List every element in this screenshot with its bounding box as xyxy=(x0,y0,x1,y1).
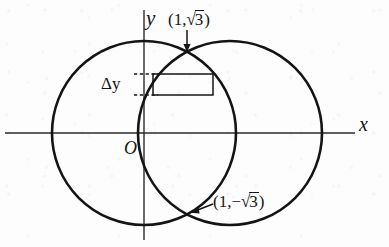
diagram-svg xyxy=(0,0,389,247)
upper-label-close: ) xyxy=(204,10,210,29)
upper-label-radicand: 3 xyxy=(195,10,205,28)
lower-label-open: (1, xyxy=(213,192,231,211)
lower-label-minus: − xyxy=(231,192,241,211)
upper-intersection-label: (1,√3) xyxy=(168,10,210,28)
delta-y-label: Δy xyxy=(101,75,120,92)
lower-arrow-head xyxy=(190,207,200,214)
lower-label-radicand: 3 xyxy=(249,192,259,210)
delta-y-rectangle xyxy=(153,74,213,95)
lower-intersection-label: (1,−√3) xyxy=(213,192,265,210)
origin-label: O xyxy=(124,139,137,157)
upper-label-open: (1, xyxy=(168,10,186,29)
y-axis-label: y xyxy=(146,8,155,29)
x-axis-label: x xyxy=(359,114,368,134)
lower-label-close: ) xyxy=(259,192,265,211)
figure-canvas: y x O Δy (1,√3) (1,−√3) xyxy=(0,0,389,247)
